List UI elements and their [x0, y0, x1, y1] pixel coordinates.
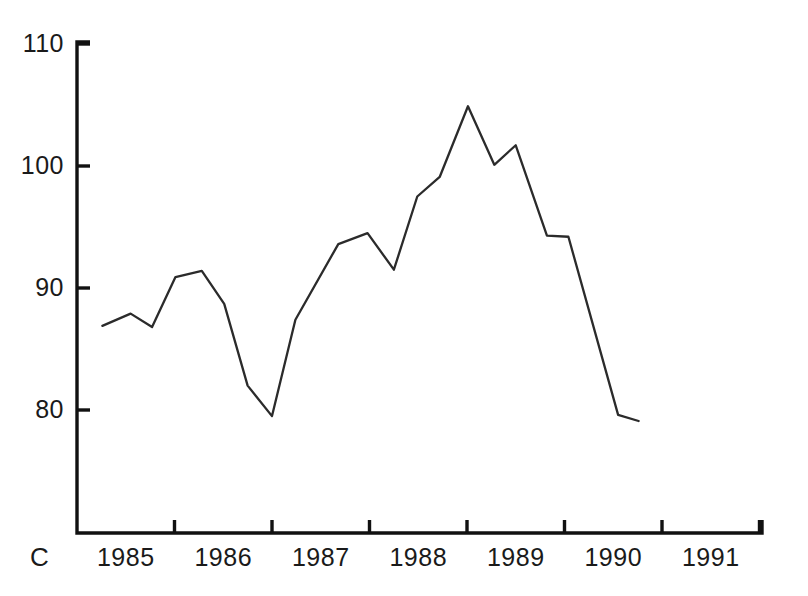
chart-container: 8090100110 1985198619871988198919901991 … — [0, 0, 808, 596]
x-axis-tick-label: 1985 — [86, 545, 166, 570]
x-axis-tick-label: 1991 — [671, 545, 751, 570]
y-axis-tick-label: 90 — [35, 275, 64, 300]
x-axis-tick-label: 1989 — [476, 545, 556, 570]
y-axis-tick-label: 80 — [35, 397, 64, 422]
y-axis-tick-label: 100 — [21, 153, 64, 178]
chart-axes — [77, 42, 762, 533]
y-axis-tick-label: 110 — [23, 31, 64, 56]
axis-lines — [77, 42, 762, 533]
data-series-line — [102, 106, 638, 421]
x-axis-tick-label: 1987 — [281, 545, 361, 570]
x-axis-tick-label: 1988 — [378, 545, 458, 570]
chart-plot-area — [0, 0, 808, 596]
x-axis-tick-label: 1986 — [183, 545, 263, 570]
x-axis-tick-label: 1990 — [573, 545, 653, 570]
y-axis-ticks — [77, 44, 90, 410]
chart-corner-label: C — [30, 544, 49, 570]
x-axis-ticks — [175, 520, 760, 533]
